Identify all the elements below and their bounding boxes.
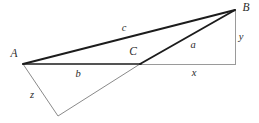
side-label-y: y (239, 32, 244, 43)
side-label-z: z (30, 90, 34, 101)
edge-side-a (140, 10, 235, 64)
side-label-c: c (122, 23, 127, 34)
geometry-figure: A B C c a b x y z (0, 0, 259, 123)
side-label-b: b (75, 69, 80, 80)
figure-canvas (0, 0, 259, 123)
edge-d-to-c (58, 64, 140, 116)
edge-side-z (23, 64, 58, 116)
side-label-x: x (192, 68, 197, 79)
vertex-label-A: A (10, 48, 17, 60)
side-label-a: a (190, 40, 195, 51)
vertex-label-C: C (129, 46, 137, 58)
vertex-label-B: B (242, 2, 249, 14)
